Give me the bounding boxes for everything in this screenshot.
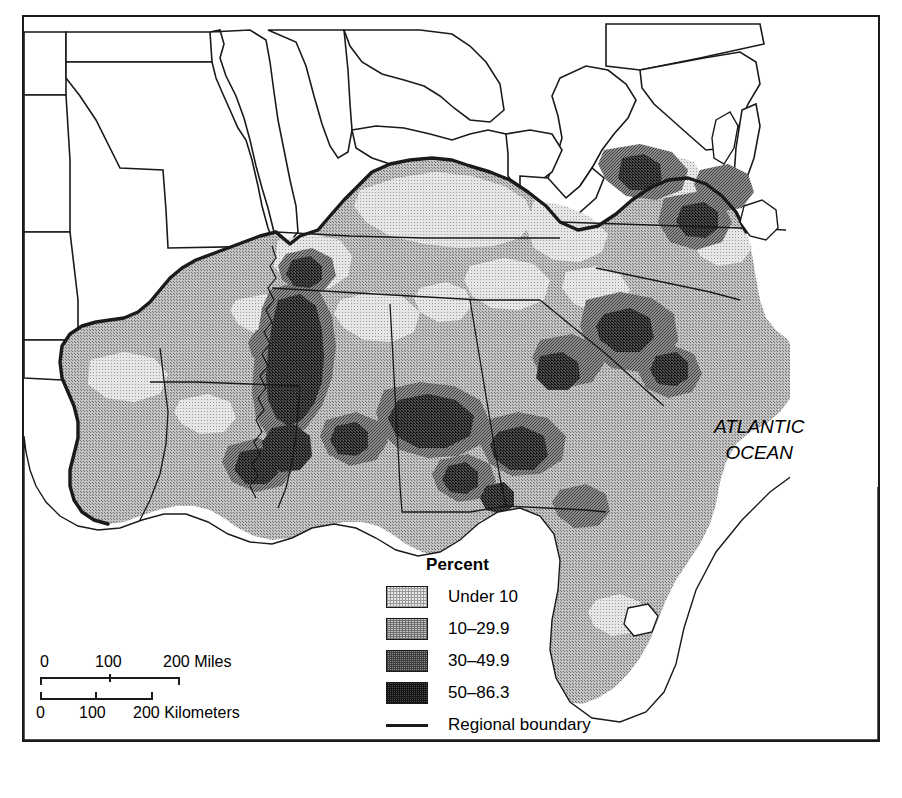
legend-label-50-86: 50–86.3: [448, 684, 509, 702]
legend-item-50-86: 50–86.3: [386, 677, 686, 709]
legend-item-regional-boundary: Regional boundary: [386, 709, 686, 741]
legend-label-under-10: Under 10: [448, 588, 518, 606]
map-legend: Percent Under 10 10–29.9 30–49.9 50–86.3…: [386, 556, 686, 741]
legend-swatch-30-49: [386, 650, 428, 672]
legend-label-regional-boundary: Regional boundary: [448, 716, 591, 734]
legend-swatch-50-86: [386, 682, 428, 704]
scale-miles-label-100: 100: [95, 652, 122, 672]
scale-km-label-200: 200 Kilometers: [133, 703, 240, 723]
legend-item-30-49: 30–49.9: [386, 645, 686, 677]
scale-km-label-100: 100: [79, 703, 106, 723]
legend-label-10-29: 10–29.9: [448, 620, 509, 638]
legend-item-under-10: Under 10: [386, 581, 686, 613]
legend-label-30-49: 30–49.9: [448, 652, 509, 670]
scale-km-label-0: 0: [36, 703, 45, 723]
legend-swatch-under-10: [386, 586, 428, 608]
legend-title: Percent: [426, 556, 686, 574]
map-figure: ATLANTIC OCEAN Percent Under 10 10–29.9 …: [0, 0, 902, 798]
legend-item-10-29: 10–29.9: [386, 613, 686, 645]
atlantic-ocean-label: ATLANTIC OCEAN: [714, 414, 804, 466]
regional-boundary-swatch: [386, 714, 428, 736]
scale-miles-label-0: 0: [40, 652, 49, 672]
scale-miles-label-200: 200 Miles: [163, 652, 231, 672]
ocean-label-line1: ATLANTIC: [714, 414, 804, 440]
ocean-label-line2: OCEAN: [714, 440, 804, 466]
legend-swatch-10-29: [386, 618, 428, 640]
